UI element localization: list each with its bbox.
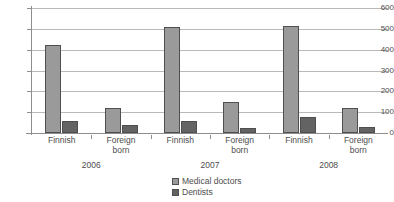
legend-swatch-icon-medical-doctors <box>172 178 179 185</box>
bar-medical-doctors <box>164 27 180 133</box>
bar-dentists <box>62 121 78 133</box>
x-axis-category-label: Finnish <box>32 135 91 145</box>
legend-label-dentists: Dentists <box>182 188 213 197</box>
bar-medical-doctors <box>105 108 121 133</box>
x-axis-group-label: 2007 <box>151 160 270 170</box>
bar-medical-doctors <box>283 26 299 133</box>
bar-medical-doctors <box>342 108 358 133</box>
x-axis-category-labels: FinnishForeignbornFinnishForeignbornFinn… <box>32 135 388 159</box>
bars-layer <box>32 8 388 133</box>
x-axis-line <box>26 133 388 134</box>
x-axis-group-labels: 200620072008 <box>32 160 388 174</box>
bar-dentists <box>181 121 197 133</box>
x-axis-tick-mark <box>210 135 211 139</box>
x-axis-category-label: Finnish <box>151 135 210 145</box>
x-axis-category-label: Finnish <box>269 135 328 145</box>
legend: Medical doctors Dentists <box>172 176 242 198</box>
bar-dentists <box>240 128 256 133</box>
y-axis-tick-mark <box>27 133 32 134</box>
bar-chart: 6005004003002001000 FinnishForeignbornFi… <box>0 0 394 202</box>
bar-dentists <box>359 127 375 133</box>
bar-dentists <box>122 125 138 133</box>
legend-item-medical-doctors: Medical doctors <box>172 176 242 187</box>
x-axis-category-label: Foreignborn <box>329 135 388 155</box>
x-axis-group-label: 2008 <box>269 160 388 170</box>
x-axis-tick-mark <box>329 135 330 139</box>
bar-dentists <box>300 117 316 133</box>
legend-item-dentists: Dentists <box>172 187 242 198</box>
bar-medical-doctors <box>223 102 239 133</box>
x-axis-group-label: 2006 <box>32 160 151 170</box>
x-axis-category-label: Foreignborn <box>91 135 150 155</box>
x-axis-tick-mark <box>269 135 270 139</box>
legend-swatch-icon-dentists <box>172 189 179 196</box>
x-axis-category-label: Foreignborn <box>210 135 269 155</box>
x-axis-tick-mark <box>91 135 92 139</box>
bar-medical-doctors <box>45 45 61 133</box>
legend-label-medical-doctors: Medical doctors <box>182 177 242 186</box>
x-axis-tick-mark <box>151 135 152 139</box>
